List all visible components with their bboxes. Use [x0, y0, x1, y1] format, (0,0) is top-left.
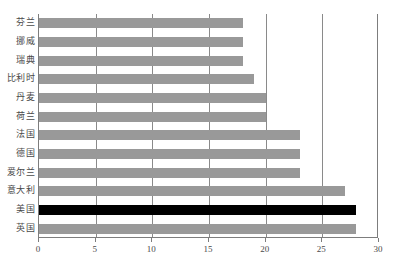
x-axis-label-0: 0: [23, 244, 53, 255]
x-axis-label-5: 5: [80, 244, 110, 255]
x-axis-tick-20: [265, 238, 266, 242]
bar-row: [39, 56, 377, 66]
bar-row: [39, 186, 377, 196]
bars-group: [39, 14, 377, 237]
bar-row: [39, 205, 377, 215]
y-axis-category-labels: 芬兰挪威瑞典比利时丹麦荷兰法国德国爱尔兰意大利美国英国: [0, 0, 38, 262]
x-axis-tick-25: [321, 238, 322, 242]
bar-法国: [39, 130, 300, 140]
bar-芬兰: [39, 18, 243, 28]
y-axis-label-丹麦: 丹麦: [16, 92, 35, 103]
bar-丹麦: [39, 93, 266, 103]
bar-row: [39, 149, 377, 159]
bar-荷兰: [39, 112, 266, 122]
bar-row: [39, 37, 377, 47]
bar-row: [39, 130, 377, 140]
y-axis-label-意大利: 意大利: [7, 185, 36, 196]
bar-挪威: [39, 37, 243, 47]
bar-row: [39, 18, 377, 28]
bar-美国: [39, 205, 356, 215]
x-axis-label-20: 20: [250, 244, 280, 255]
x-axis-tick-10: [151, 238, 152, 242]
x-axis-tick-15: [208, 238, 209, 242]
y-axis-label-爱尔兰: 爱尔兰: [7, 167, 36, 178]
bar-英国: [39, 224, 356, 234]
bar-德国: [39, 149, 300, 159]
x-axis: 051015202530: [38, 238, 379, 262]
y-axis-label-瑞典: 瑞典: [16, 55, 35, 66]
bar-意大利: [39, 186, 345, 196]
y-axis-label-美国: 美国: [16, 204, 35, 215]
x-axis-label-30: 30: [363, 244, 393, 255]
bar-比利时: [39, 74, 254, 84]
bar-row: [39, 168, 377, 178]
chart-title: [0, 0, 403, 1]
bar-爱尔兰: [39, 168, 300, 178]
bar-row: [39, 93, 377, 103]
bar-row: [39, 112, 377, 122]
bar-瑞典: [39, 56, 243, 66]
y-axis-label-比利时: 比利时: [7, 73, 36, 84]
x-axis-label-25: 25: [306, 244, 336, 255]
x-axis-tick-5: [95, 238, 96, 242]
y-axis-label-挪威: 挪威: [16, 36, 35, 47]
x-axis-label-15: 15: [193, 244, 223, 255]
x-axis-tick-0: [38, 238, 39, 242]
y-axis-label-法国: 法国: [16, 129, 35, 140]
y-axis-label-芬兰: 芬兰: [16, 17, 35, 28]
y-axis-label-英国: 英国: [16, 223, 35, 234]
plot-area: [38, 14, 378, 238]
y-axis-label-荷兰: 荷兰: [16, 111, 35, 122]
bar-row: [39, 224, 377, 234]
x-axis-tick-30: [378, 238, 379, 242]
bar-chart: 芬兰挪威瑞典比利时丹麦荷兰法国德国爱尔兰意大利美国英国 051015202530: [0, 0, 403, 262]
y-axis-label-德国: 德国: [16, 148, 35, 159]
x-axis-label-10: 10: [136, 244, 166, 255]
bar-row: [39, 74, 377, 84]
